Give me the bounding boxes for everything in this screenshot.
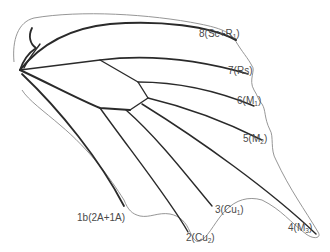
label-vein-7: 7(Rs) xyxy=(228,66,252,76)
vein-cu1 xyxy=(126,110,212,206)
vein-2a-1a xyxy=(22,74,124,206)
label-vein-3: 3(Cu1) xyxy=(215,205,244,217)
wing-drawing xyxy=(0,0,330,252)
wing-margin xyxy=(14,14,319,242)
discal-cell xyxy=(100,60,148,110)
humeral-vein xyxy=(20,28,36,70)
label-vein-4: 4(M3) xyxy=(288,223,312,235)
label-vein-5: 5(M2) xyxy=(243,134,267,146)
vein-rs xyxy=(20,58,248,74)
wing-venation-diagram: 8(Sc+R1) 7(Rs) 6(M1) 5(M2) 4(M3) 3(Cu1) … xyxy=(0,0,330,252)
label-vein-8: 8(Sc+R1) xyxy=(199,29,240,41)
label-vein-2: 2(Cu2) xyxy=(186,233,215,245)
vein-cu-stem xyxy=(20,70,130,110)
label-vein-1b: 1b(2A+1A) xyxy=(77,213,125,223)
label-vein-6: 6(M1) xyxy=(237,96,261,108)
